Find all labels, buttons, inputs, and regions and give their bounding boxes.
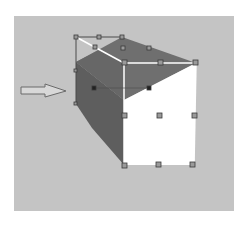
handle[interactable] [97, 35, 101, 39]
handle[interactable] [74, 102, 77, 105]
handle[interactable] [190, 162, 195, 167]
handle[interactable] [120, 35, 124, 39]
handle[interactable] [121, 46, 125, 50]
handle[interactable] [156, 162, 161, 167]
handle[interactable] [193, 60, 198, 65]
handle[interactable] [192, 113, 197, 118]
box-diagram [0, 0, 250, 240]
handle[interactable] [74, 35, 78, 39]
handle[interactable] [122, 163, 127, 168]
handle[interactable] [157, 113, 162, 118]
handle[interactable] [158, 60, 163, 65]
handle[interactable] [74, 69, 77, 72]
handle[interactable] [122, 113, 127, 118]
handle[interactable] [147, 46, 151, 50]
right-arrow-icon [21, 84, 66, 97]
handle[interactable] [92, 86, 96, 90]
handle[interactable] [122, 60, 127, 65]
handle[interactable] [147, 86, 151, 90]
handle[interactable] [93, 45, 97, 49]
